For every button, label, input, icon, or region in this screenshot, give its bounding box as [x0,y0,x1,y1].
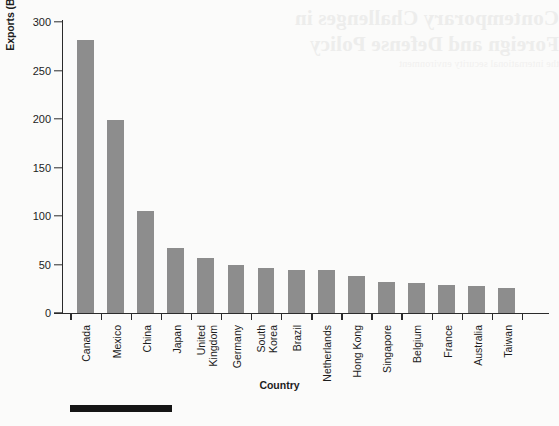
x-axis-tick-mark [221,313,222,320]
x-axis-tick-label: Canada [81,325,93,362]
bar [288,270,305,313]
bar-chart-figure: Exports (Billions of Dollars) 0501001502… [0,0,559,426]
x-axis-tick-mark [432,313,433,320]
x-axis-tick-mark [101,313,102,320]
x-axis-tick-mark [161,313,162,320]
bar [167,248,184,313]
x-axis-tick-mark [371,313,372,320]
x-axis-tick-mark [251,313,252,320]
x-axis-tick-mark [311,313,312,320]
bar [438,285,455,313]
bar [107,120,124,313]
y-axis-tick-mark [54,264,62,265]
x-axis-tick-mark [281,313,282,320]
x-axis-tick-label: Brazil [292,325,304,351]
x-axis-title: Country [0,379,559,391]
x-axis-tick-label: Singapore [382,325,394,373]
x-axis-tick-mark [131,313,132,320]
x-axis-tick-label: Germany [232,325,244,368]
y-axis-tick-mark [54,21,62,22]
x-axis-tick-label: Hong Kong [352,325,364,378]
x-axis-tick-label: Japan [172,325,184,354]
bar [348,276,365,313]
bar [408,283,425,313]
x-axis-tick-mark [341,313,342,320]
x-axis-tick-label: Belgium [412,325,424,363]
x-axis-tick-label: Netherlands [322,325,334,382]
bar [77,40,94,313]
bar [228,265,245,314]
y-axis-tick-mark [54,118,62,119]
x-axis-tick-mark [191,313,192,320]
x-axis-tick-label: Taiwan [503,325,515,358]
x-axis-tick-label: France [443,325,455,358]
bar [468,286,485,313]
y-axis-title: Exports (Billions of Dollars) [2,0,18,88]
bar [197,258,214,313]
bar [137,211,154,313]
bar [498,288,515,313]
x-axis-tick-mark [522,313,523,320]
x-axis-tick-mark [401,313,402,320]
bar [318,270,335,313]
bar [258,268,275,313]
x-axis-line [54,313,549,314]
bar [378,282,395,313]
x-axis-tick-mark [70,313,71,320]
x-axis-tick-mark [462,313,463,320]
y-axis-tick-mark [54,215,62,216]
x-axis-tick-label: Australia [473,325,485,366]
y-axis-tick-mark [54,70,62,71]
x-axis-tick-label: UnitedKingdom [196,325,219,366]
x-axis-tick-mark [492,313,493,320]
footer-rule [70,405,172,412]
x-axis-tick-label: China [142,325,154,352]
plot-area: 050100150200250300CanadaMexicoChinaJapan… [62,22,548,313]
x-axis-tick-label: SouthKorea [256,325,279,353]
y-axis-tick-mark [54,167,62,168]
x-axis-tick-label: Mexico [112,325,124,358]
y-axis-tick-mark [54,312,62,313]
